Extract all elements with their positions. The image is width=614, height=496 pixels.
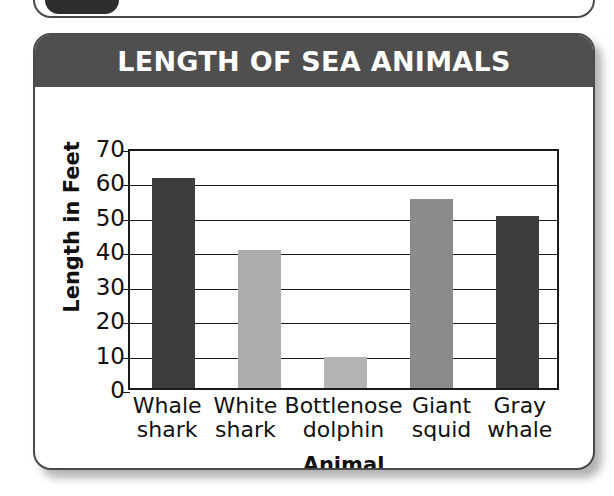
y-tick-mark bbox=[123, 254, 130, 255]
y-tick-label: 70 bbox=[96, 138, 125, 161]
x-tick-label: Whaleshark bbox=[128, 394, 206, 442]
clipped-top-badge: 6 bbox=[45, 0, 119, 14]
y-tick-mark bbox=[123, 323, 130, 324]
x-tick-label-line: squid bbox=[402, 418, 480, 442]
bars-layer bbox=[130, 151, 557, 388]
y-tick-label: 20 bbox=[96, 310, 125, 333]
y-tick-mark bbox=[123, 185, 130, 186]
y-tick-label: 30 bbox=[96, 275, 125, 298]
y-axis-tick-labels: 010203040506070 bbox=[85, 149, 125, 390]
x-tick-label-line: Whale bbox=[128, 394, 206, 418]
y-tick-label: 10 bbox=[96, 344, 125, 367]
y-tick-mark bbox=[123, 358, 130, 359]
x-tick-label: Bottlenosedolphin bbox=[285, 394, 403, 442]
x-tick-label-line: shark bbox=[128, 418, 206, 442]
y-axis-title: Length in Feet bbox=[60, 127, 84, 327]
y-tick-label: 40 bbox=[96, 241, 125, 264]
x-tick-label-line: Gray bbox=[481, 394, 559, 418]
bar-bottlenose-dolphin bbox=[324, 357, 367, 388]
x-tick-label: Graywhale bbox=[481, 394, 559, 442]
x-tick-label: Giantsquid bbox=[402, 394, 480, 442]
y-tick-mark bbox=[123, 289, 130, 290]
chart-card: LENGTH OF SEA ANIMALS Length in Feet 010… bbox=[33, 33, 595, 470]
plot-wrapper: Length in Feet 010203040506070 Whaleshar… bbox=[35, 87, 593, 468]
x-tick-label-line: shark bbox=[206, 418, 284, 442]
x-axis-title: Animal bbox=[128, 453, 559, 470]
x-tick-label-line: Bottlenose bbox=[285, 394, 403, 418]
bar-white-shark bbox=[238, 250, 281, 388]
x-tick-label-line: dolphin bbox=[285, 418, 403, 442]
bar-whale-shark bbox=[152, 178, 195, 388]
chart-title-banner: LENGTH OF SEA ANIMALS bbox=[35, 35, 593, 87]
y-tick-mark bbox=[123, 392, 130, 393]
y-tick-label: 60 bbox=[96, 172, 125, 195]
bar-giant-squid bbox=[410, 199, 453, 388]
bar-gray-whale bbox=[496, 216, 539, 388]
y-tick-mark bbox=[123, 151, 130, 152]
x-tick-label-line: whale bbox=[481, 418, 559, 442]
x-tick-label-line: Giant bbox=[402, 394, 480, 418]
plot-area bbox=[128, 149, 559, 390]
x-tick-label-line: White bbox=[206, 394, 284, 418]
x-axis-tick-labels: WhalesharkWhitesharkBottlenosedolphinGia… bbox=[128, 394, 559, 442]
x-tick-label: Whiteshark bbox=[206, 394, 284, 442]
y-tick-label: 0 bbox=[110, 379, 125, 402]
y-tick-label: 50 bbox=[96, 206, 125, 229]
chart-title: LENGTH OF SEA ANIMALS bbox=[117, 46, 511, 77]
y-tick-mark bbox=[123, 220, 130, 221]
